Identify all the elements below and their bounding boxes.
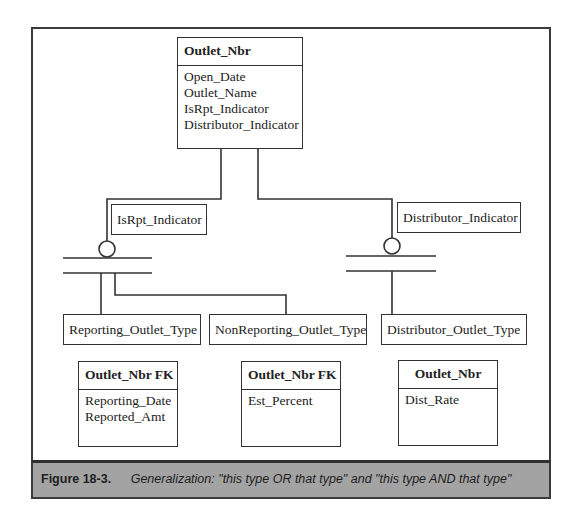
category-circle-left (99, 241, 115, 257)
entity-attributes: Open_Date Outlet_Name IsRpt_Indicator Di… (178, 66, 302, 136)
attribute: Reporting_Date (85, 393, 171, 409)
entity-key: Outlet_Nbr (178, 38, 302, 66)
discriminator-label-isrpt: IsRpt_Indicator (111, 204, 207, 235)
subtype-label-nonreporting: NonReporting_Outlet_Type (209, 314, 367, 345)
attribute: IsRpt_Indicator (184, 101, 296, 117)
discriminator-label-distributor: Distributor_Indicator (397, 202, 521, 233)
entity-outlet: Outlet_Nbr Open_Date Outlet_Name IsRpt_I… (177, 37, 303, 149)
attribute: Dist_Rate (405, 392, 491, 408)
attribute: Outlet_Name (184, 85, 296, 101)
attribute: Open_Date (184, 69, 296, 85)
entity-attributes: Dist_Rate (399, 389, 497, 411)
entity-reporting: Outlet_Nbr FK Reporting_Date Reported_Am… (78, 361, 178, 447)
entity-distributor: Outlet_Nbr Dist_Rate (398, 360, 498, 446)
figure-caption: Figure 18-3. Generalization: "this type … (31, 460, 551, 499)
attribute: Reported_Amt (85, 409, 171, 425)
attribute: Est_Percent (248, 393, 334, 409)
figure-number: Figure 18-3. (41, 472, 111, 486)
entity-nonreporting: Outlet_Nbr FK Est_Percent (241, 361, 341, 447)
entity-key: Outlet_Nbr FK (242, 362, 340, 390)
entity-attributes: Est_Percent (242, 390, 340, 412)
connector-supertype-right (258, 148, 392, 238)
caption-text: Generalization: "this type OR that type"… (131, 472, 512, 486)
subtype-label-reporting: Reporting_Outlet_Type (63, 314, 201, 345)
subtype-label-distributor: Distributor_Outlet_Type (381, 314, 527, 345)
attribute: Distributor_Indicator (184, 117, 296, 133)
entity-key: Outlet_Nbr (399, 361, 497, 389)
entity-attributes: Reporting_Date Reported_Amt (79, 390, 177, 428)
entity-key: Outlet_Nbr FK (79, 362, 177, 390)
category-circle-right (384, 238, 400, 254)
